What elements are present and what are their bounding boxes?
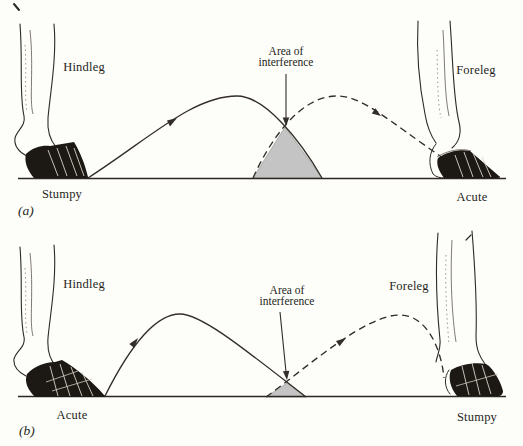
- panel-letter-b: (b): [19, 423, 35, 439]
- hindleg-label-b: Hindleg: [63, 277, 105, 292]
- interference-area-a: [253, 127, 322, 178]
- interference-label-a-line2: interference: [259, 57, 314, 68]
- acute-hoof-b: [26, 360, 105, 397]
- interference-label-a: Area of interference: [259, 46, 314, 68]
- interference-area-b: [266, 383, 306, 397]
- left-hoof-type-label-b: Acute: [57, 408, 88, 423]
- right-hoof-type-label-a: Acute: [457, 190, 488, 205]
- panel-a-drawing: [14, 4, 506, 179]
- interference-label-b-line2: interference: [260, 296, 315, 307]
- foreleg-drawing-a: [418, 21, 500, 178]
- right-hoof-type-label-b: Stumpy: [457, 410, 497, 425]
- hindleg-flight-arc-b: [105, 314, 306, 397]
- foreleg-label-a: Foreleg: [456, 63, 496, 78]
- interference-pointer-arrowhead-b: [283, 371, 289, 380]
- hindleg-drawing-b: [14, 245, 105, 397]
- foreleg-label-b: Foreleg: [389, 279, 429, 294]
- interference-pointer-line-b: [280, 312, 286, 372]
- stumpy-hoof-a: [25, 142, 89, 178]
- panel-letter-a: (a): [18, 203, 34, 219]
- gait-interference-figure: Hindleg Area of interference Foreleg Stu…: [0, 0, 523, 446]
- left-hoof-type-label-a: Stumpy: [42, 187, 82, 202]
- hindleg-label-a: Hindleg: [63, 60, 105, 75]
- interference-label-b: Area of interference: [260, 285, 315, 307]
- foreleg-drawing-b: [436, 231, 503, 396]
- hindleg-arc-arrowhead-a: [167, 118, 177, 127]
- foreleg-arc-arrowhead-b: [336, 338, 346, 346]
- hindleg-drawing-a: [14, 4, 89, 178]
- foreleg-flight-arc-b: [266, 315, 444, 397]
- panel-b-drawing: [14, 231, 506, 397]
